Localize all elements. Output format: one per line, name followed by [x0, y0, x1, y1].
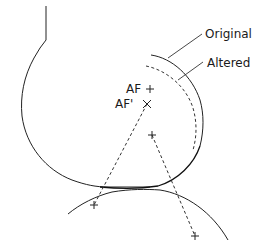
af-center-plus-marker: [146, 85, 154, 93]
lower-right-plus-marker: [191, 232, 199, 240]
lower-body-curve: [68, 189, 228, 240]
original-leader-line: [168, 34, 202, 58]
contact-geometry-diagram: Original Altered AF AF': [0, 0, 260, 251]
upper-arc-center-plus-marker: [148, 131, 156, 139]
af-prime-label: AF': [115, 97, 133, 111]
altered-label: Altered: [207, 56, 250, 70]
original-label: Original: [205, 27, 252, 41]
original-arc: [151, 55, 203, 146]
af-prime-center-x-marker: [143, 100, 151, 108]
af-label: AF: [126, 82, 141, 96]
upper-body-contact-arc: [100, 146, 200, 188]
lower-left-plus-marker: [90, 201, 98, 209]
